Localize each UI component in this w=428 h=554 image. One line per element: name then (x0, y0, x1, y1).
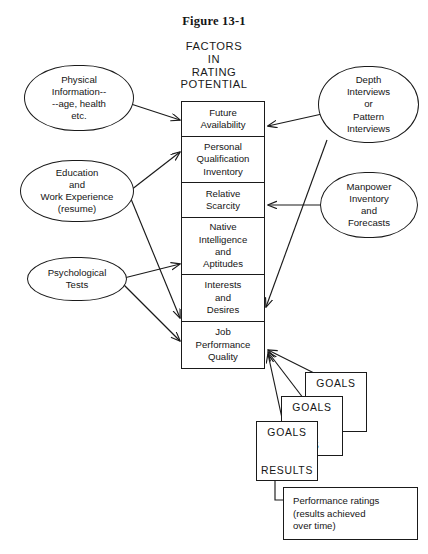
node-depth-interviews-label: Depth Interviews or Pattern Interviews (338, 74, 399, 135)
node-manpower-inventory-forecasts: Manpower Inventory and Forecasts (320, 172, 418, 238)
node-physical-information: Physical Information-- --age, health etc… (24, 65, 134, 131)
node-education-work-experience: Education and Work Experience (resume) (20, 160, 134, 222)
node-physical-information-label: Physical Information-- --age, health etc… (43, 74, 115, 123)
node-native-intelligence-aptitudes-label: Native Intelligence and Aptitudes (199, 221, 248, 271)
card-goals-results-front: GOALS RESULTS (256, 421, 318, 481)
node-job-performance-quality: Job Performance Quality (181, 321, 265, 369)
card-goals-results-back-goals: GOALS (306, 378, 366, 389)
node-native-intelligence-aptitudes: Native Intelligence and Aptitudes (181, 217, 265, 275)
node-future-availability-label: Future Availability (200, 107, 245, 132)
node-psychological-tests-label: Psychological Tests (39, 267, 116, 291)
node-job-performance-quality-label: Job Performance Quality (196, 326, 251, 363)
figure-heading-line-2: IN (0, 53, 428, 66)
node-personal-qualification-inventory-label: Personal Qualification Inventory (197, 141, 250, 178)
node-relative-scarcity-label: Relative Scarcity (206, 188, 241, 213)
node-manpower-inventory-forecasts-label: Manpower Inventory and Forecasts (338, 181, 401, 230)
figure-caption: Figure 13-1 (0, 14, 428, 29)
node-future-availability: Future Availability (181, 101, 265, 137)
node-personal-qualification-inventory: Personal Qualification Inventory (181, 136, 265, 183)
node-performance-ratings-note-label: Performance ratings (results achieved ov… (293, 495, 379, 531)
card-goals-results-front-goals: GOALS (257, 427, 317, 438)
node-interests-desires-label: Interests and Desires (205, 279, 242, 316)
card-goals-results-front-results: RESULTS (257, 465, 317, 476)
node-performance-ratings-note: Performance ratings (results achieved ov… (283, 487, 418, 540)
node-depth-interviews: Depth Interviews or Pattern Interviews (318, 66, 419, 143)
node-relative-scarcity: Relative Scarcity (181, 182, 265, 218)
node-education-work-experience-label: Education and Work Experience (resume) (32, 167, 123, 216)
figure-page: Figure 13-1 FACTORS IN RATING POTENTIAL … (0, 0, 428, 554)
node-psychological-tests: Psychological Tests (27, 257, 127, 301)
card-goals-results-middle-goals: GOALS (282, 402, 342, 413)
node-interests-desires: Interests and Desires (181, 274, 265, 322)
figure-heading-line-1: FACTORS (0, 40, 428, 53)
